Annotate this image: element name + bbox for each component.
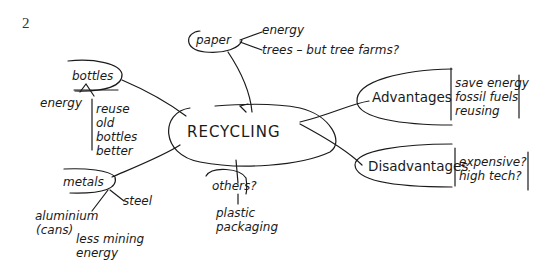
disadvantages-list-item: expensive? (459, 155, 527, 169)
others-label: others? (212, 180, 257, 192)
bottles-list: reuse old bottles better (96, 102, 137, 158)
disadvantages-list-item: high tech? (459, 169, 527, 183)
paper-item-trees: trees – but tree farms? (262, 44, 399, 56)
bottles-list-item: old (96, 116, 137, 130)
metals-note: less mining energy (76, 232, 144, 260)
paper-label: paper (196, 34, 231, 46)
bottles-list-item: reuse (96, 102, 137, 116)
others-item: plastic (216, 206, 278, 220)
advantages-list-item: save energy (455, 76, 529, 90)
page-number: 2 (22, 15, 30, 32)
metals-item-steel: steel (123, 195, 152, 207)
metals-note-line: less mining (76, 232, 144, 246)
advantages-list-item: fossil fuels (455, 90, 529, 104)
bottles-label: bottles (72, 70, 113, 82)
others-item: packaging (216, 220, 278, 234)
paper-item-energy: energy (262, 24, 304, 36)
advantages-list-item: reusing (455, 104, 529, 118)
advantages-label: Advantages (372, 91, 452, 105)
others-items: plastic packaging (216, 206, 278, 234)
metals-label: metals (63, 176, 104, 188)
metals-item-aluminium: aluminium (35, 210, 99, 222)
bottles-item-energy: energy (40, 97, 82, 109)
bottles-list-item: better (96, 144, 137, 158)
metals-item-cans: (cans) (36, 224, 73, 236)
center-label: RECYCLING (187, 125, 281, 140)
bottles-list-item: bottles (96, 130, 137, 144)
disadvantages-list: expensive? high tech? (459, 155, 527, 183)
metals-note-line: energy (76, 246, 144, 260)
disadvantages-label: Disadvantages (368, 160, 468, 174)
advantages-list: save energy fossil fuels reusing (455, 76, 529, 118)
